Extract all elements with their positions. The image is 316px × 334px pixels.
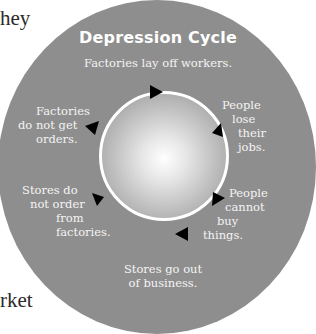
arrow-icon-top (150, 85, 163, 99)
arrow-icon-bottom (175, 227, 188, 241)
arrow-icon-lower-left (92, 193, 104, 206)
arrow-icon-upper-left (85, 121, 99, 135)
arrow-icon-upper-right (212, 123, 223, 137)
arrow-icon-lower-right (212, 192, 225, 206)
